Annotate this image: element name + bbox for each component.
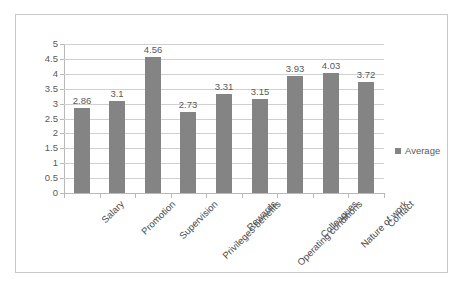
bar[interactable] bbox=[145, 57, 161, 193]
x-axis-category-label: Rewards bbox=[245, 199, 279, 233]
bar[interactable] bbox=[216, 94, 232, 193]
legend-swatch-icon bbox=[395, 148, 401, 154]
y-axis-tick-label: 5 bbox=[18, 39, 58, 49]
y-axis-labels: 54.543.532.521.510.50 bbox=[16, 15, 58, 292]
bar-value-label: 2.73 bbox=[170, 100, 206, 110]
bar-value-label: 4.56 bbox=[135, 45, 171, 55]
bar[interactable] bbox=[323, 73, 339, 193]
x-axis-category-label: Salary bbox=[100, 199, 126, 225]
y-axis-tick bbox=[60, 133, 64, 134]
y-axis-tick-label: 3 bbox=[18, 99, 58, 109]
y-axis-tick bbox=[60, 178, 64, 179]
y-axis-tick-label: 2 bbox=[18, 128, 58, 138]
x-axis-category-label: Colleagues bbox=[319, 199, 360, 240]
x-axis-tick bbox=[348, 194, 349, 198]
x-axis-line bbox=[64, 193, 385, 194]
x-axis-tick bbox=[100, 194, 101, 198]
y-axis-tick-label: 1 bbox=[18, 158, 58, 168]
x-axis-tick bbox=[242, 194, 243, 198]
y-axis-tick bbox=[60, 59, 64, 60]
y-axis-tick bbox=[60, 163, 64, 164]
legend-entry-label: Average bbox=[405, 146, 440, 156]
bar[interactable] bbox=[180, 112, 196, 193]
x-axis-tick bbox=[171, 194, 172, 198]
y-axis-tick-label: 0 bbox=[18, 188, 58, 198]
bar-value-label: 3.31 bbox=[206, 82, 242, 92]
bar-value-label: 3.72 bbox=[348, 70, 384, 80]
bar[interactable] bbox=[109, 101, 125, 193]
bar[interactable] bbox=[252, 99, 268, 193]
x-axis-tick bbox=[313, 194, 314, 198]
bar[interactable] bbox=[287, 76, 303, 193]
y-axis-tick-label: 3.5 bbox=[18, 84, 58, 94]
y-axis-tick-label: 4.5 bbox=[18, 54, 58, 64]
bar-value-label: 3.93 bbox=[277, 64, 313, 74]
x-axis-tick bbox=[64, 194, 65, 198]
y-axis-tick bbox=[60, 74, 64, 75]
y-axis-tick-label: 2.5 bbox=[18, 114, 58, 124]
bar-value-label: 3.15 bbox=[242, 87, 278, 97]
y-axis-tick bbox=[60, 148, 64, 149]
x-axis-tick bbox=[135, 194, 136, 198]
chart-legend: Average bbox=[395, 146, 440, 156]
y-axis-tick bbox=[60, 89, 64, 90]
bar[interactable] bbox=[74, 108, 90, 193]
x-axis-category-label: Promotion bbox=[140, 199, 178, 237]
chart-frame: 54.543.532.521.510.50 2.863.14.562.733.3… bbox=[15, 14, 448, 273]
plot-area: 2.863.14.562.733.313.153.934.033.72 bbox=[64, 44, 384, 193]
y-axis-tick-label: 0.5 bbox=[18, 173, 58, 183]
x-axis-category-label: Supervision bbox=[178, 199, 220, 241]
y-axis-tick bbox=[60, 104, 64, 105]
x-axis-tick bbox=[206, 194, 207, 198]
bar-value-label: 3.1 bbox=[99, 89, 135, 99]
x-axis-tick bbox=[384, 194, 385, 198]
bar-value-label: 2.86 bbox=[64, 96, 100, 106]
y-axis-tick bbox=[60, 119, 64, 120]
bar-value-label: 4.03 bbox=[313, 61, 349, 71]
x-axis-tick bbox=[277, 194, 278, 198]
y-axis-tick bbox=[60, 44, 64, 45]
bar[interactable] bbox=[358, 82, 374, 193]
y-axis-tick-label: 4 bbox=[18, 69, 58, 79]
y-axis-tick-label: 1.5 bbox=[18, 143, 58, 153]
gridline bbox=[64, 44, 384, 45]
